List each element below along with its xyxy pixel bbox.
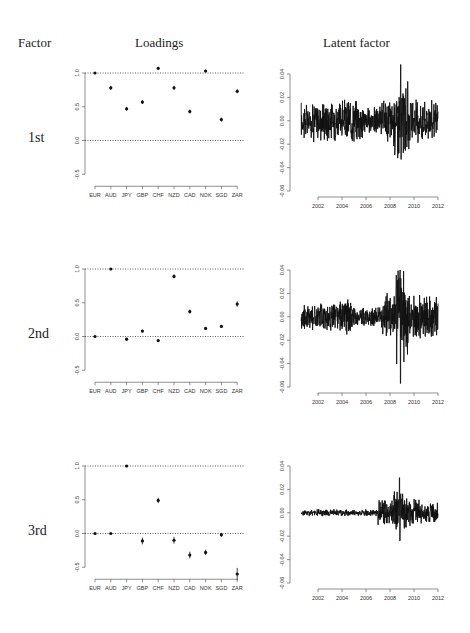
x-tick-label: NOK [200, 585, 212, 591]
x-tick-label: JPY [122, 585, 132, 591]
x-tick-label: SGD [215, 192, 227, 198]
latent-factor-series [301, 270, 438, 384]
x-tick-label: CHF [153, 388, 165, 394]
y-tick-label: 0.5 [74, 103, 80, 111]
x-tick-label: 2004 [336, 203, 348, 209]
x-tick-label: 2006 [360, 399, 372, 405]
x-tick-label: 2002 [312, 399, 324, 405]
x-tick-label: SGD [215, 585, 227, 591]
loading-point [157, 67, 160, 70]
x-tick-label: 2008 [384, 595, 396, 601]
x-tick-label: GBP [137, 192, 149, 198]
loading-point [93, 71, 96, 74]
x-tick-label: ZAR [232, 388, 243, 394]
latent-panel-2: -0.06-0.04-0.020.000.020.042002200420062… [279, 265, 444, 405]
y-tick-label: -0.06 [279, 381, 285, 394]
x-tick-label: CHF [153, 585, 165, 591]
y-tick-label: 0.0 [74, 137, 80, 145]
x-tick-label: 2004 [336, 399, 348, 405]
loading-point [188, 110, 191, 113]
loading-point [204, 551, 207, 554]
x-tick-label: CAD [184, 585, 196, 591]
x-tick-label: JPY [122, 388, 132, 394]
loading-point [109, 532, 112, 535]
y-tick-label: 1.0 [74, 69, 80, 77]
x-tick-label: 2010 [408, 203, 420, 209]
x-tick-label: 2012 [432, 203, 444, 209]
y-tick-label: 0.0 [74, 530, 80, 538]
y-tick-label: 0.00 [279, 115, 285, 126]
x-tick-label: AUD [105, 388, 117, 394]
loading-point [125, 338, 128, 341]
loadings-panel-3: -0.50.00.51.0EURAUDJPYGBPCHFNZDCADNOKSGD… [74, 462, 245, 591]
x-tick-label: EUR [89, 388, 101, 394]
loading-point [172, 275, 175, 278]
x-tick-label: 2002 [312, 203, 324, 209]
loading-point [141, 539, 144, 542]
y-tick-label: -0.5 [74, 563, 80, 572]
x-tick-label: SGD [215, 388, 227, 394]
loading-point [141, 100, 144, 103]
y-tick-label: 0.00 [279, 507, 285, 518]
y-tick-label: 0.02 [279, 288, 285, 299]
latent-factor-series [301, 478, 438, 541]
x-tick-label: 2002 [312, 595, 324, 601]
x-tick-label: 2006 [360, 595, 372, 601]
loadings-panel-1: -0.50.00.51.0EURAUDJPYGBPCHFNZDCADNOKSGD… [74, 67, 245, 199]
x-tick-label: AUD [105, 585, 117, 591]
loading-point [204, 69, 207, 72]
x-tick-label: 2010 [408, 399, 420, 405]
y-tick-label: -0.02 [279, 138, 285, 151]
x-tick-label: EUR [89, 585, 101, 591]
loading-point [109, 267, 112, 270]
loading-point [220, 533, 223, 536]
figure-panels: -0.50.00.51.0EURAUDJPYGBPCHFNZDCADNOKSGD… [0, 0, 470, 633]
loading-point [236, 90, 239, 93]
x-tick-label: 2010 [408, 595, 420, 601]
y-tick-label: 0.0 [74, 333, 80, 341]
y-tick-label: -0.04 [279, 161, 285, 174]
y-tick-label: -0.04 [279, 357, 285, 370]
x-tick-label: EUR [89, 192, 101, 198]
y-tick-label: 0.02 [279, 92, 285, 103]
loading-point [236, 572, 239, 575]
loading-point [93, 335, 96, 338]
x-tick-label: 2012 [432, 399, 444, 405]
latent-panel-3: -0.06-0.04-0.020.000.020.042002200420062… [279, 461, 444, 601]
x-tick-label: 2006 [360, 203, 372, 209]
latent-panel-1: -0.06-0.04-0.020.000.020.042002200420062… [279, 65, 444, 209]
x-tick-label: GBP [137, 388, 149, 394]
x-tick-label: 2008 [384, 399, 396, 405]
y-tick-label: 0.5 [74, 496, 80, 504]
latent-factor-series [301, 65, 438, 160]
y-tick-label: -0.06 [279, 185, 285, 198]
y-tick-label: 1.0 [74, 462, 80, 470]
x-tick-label: CAD [184, 192, 196, 198]
loading-point [157, 499, 160, 502]
x-tick-label: NZD [168, 192, 179, 198]
x-tick-label: 2008 [384, 203, 396, 209]
loading-point [220, 118, 223, 121]
loading-point [236, 303, 239, 306]
y-tick-label: 0.00 [279, 311, 285, 322]
x-tick-label: GBP [137, 585, 149, 591]
x-tick-label: NZD [168, 585, 179, 591]
loading-point [188, 554, 191, 557]
loading-point [188, 310, 191, 313]
y-tick-label: -0.02 [279, 334, 285, 347]
loading-point [125, 464, 128, 467]
y-tick-label: -0.02 [279, 530, 285, 543]
y-tick-label: 0.04 [279, 265, 285, 276]
x-tick-label: AUD [105, 192, 117, 198]
loading-point [157, 339, 160, 342]
x-tick-label: CHF [153, 192, 165, 198]
loading-point [172, 86, 175, 89]
loading-point [141, 330, 144, 333]
loadings-panel-2: -0.50.00.51.0EURAUDJPYGBPCHFNZDCADNOKSGD… [74, 265, 245, 394]
y-tick-label: 0.5 [74, 299, 80, 307]
y-tick-label: 0.04 [279, 69, 285, 80]
x-tick-label: CAD [184, 388, 196, 394]
x-tick-label: NOK [200, 388, 212, 394]
x-tick-label: NOK [200, 192, 212, 198]
loading-point [172, 539, 175, 542]
